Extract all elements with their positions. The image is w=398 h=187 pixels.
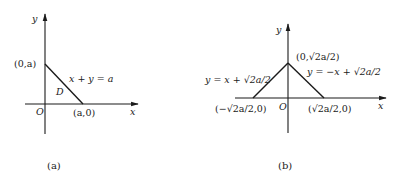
point-label-right-base-b: (√2a/2,0) (308, 103, 351, 114)
figure-b: y x O (0,√2a/2) (−√2a/2,0) (√2a/2,0) y =… (204, 24, 386, 171)
line-equation-a: x + y = a (69, 73, 114, 84)
point-label-x-intercept-a: (a,0) (73, 107, 95, 118)
origin-label-a: O (36, 106, 44, 117)
y-axis-label-a: y (31, 13, 38, 24)
x-axis-label-b: x (378, 100, 384, 111)
right-edge-equation-b: y = −x + √2a/2 (306, 66, 381, 77)
point-label-left-base-b: (−√2a/2,0) (215, 103, 266, 114)
diagram-canvas: y x O (0,a) (a,0) x + y = a D (a) y x O … (0, 0, 398, 187)
y-axis-label-b: y (275, 24, 282, 35)
left-edge-equation-b: y = x + √2a/2 (204, 74, 271, 85)
x-axis-label-a: x (130, 106, 136, 117)
point-label-y-intercept-a: (0,a) (14, 58, 36, 69)
caption-a: (a) (47, 160, 61, 171)
region-label-d: D (55, 86, 64, 97)
hypotenuse-line-a (45, 64, 83, 104)
caption-b: (b) (278, 160, 292, 171)
origin-label-b: O (279, 101, 287, 112)
point-label-apex-b: (0,√2a/2) (296, 51, 339, 62)
figure-a: y x O (0,a) (a,0) x + y = a D (a) (14, 13, 138, 171)
